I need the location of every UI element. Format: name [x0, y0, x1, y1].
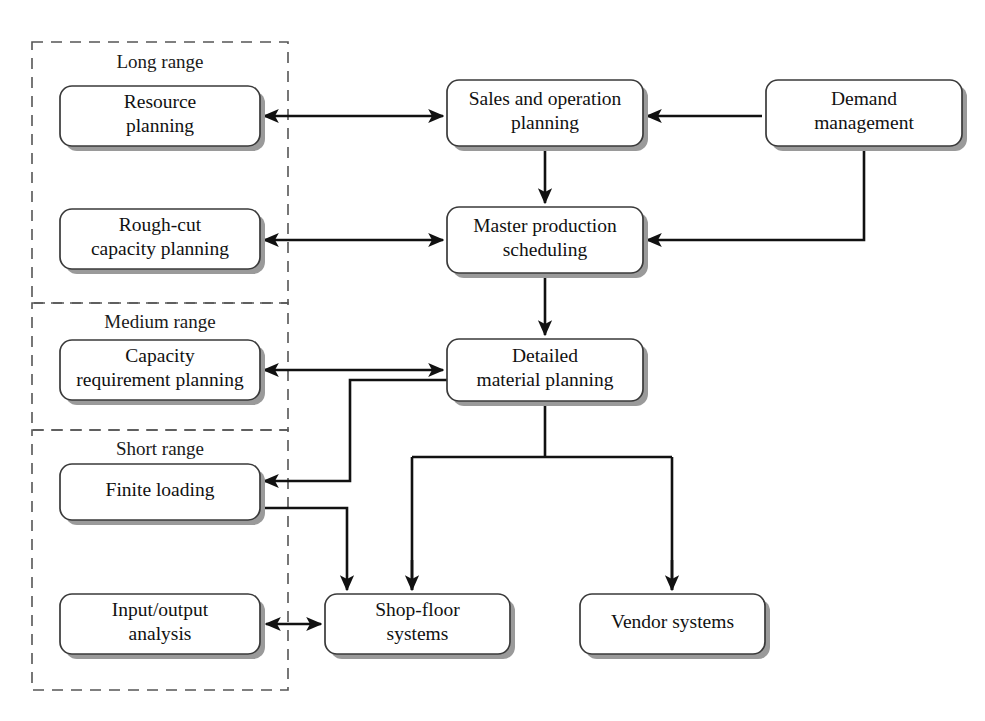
panel-label-medium-range: Medium range	[104, 311, 215, 332]
node-label-demand-management-line-1: management	[814, 112, 914, 133]
node-label-shop-floor-systems-line-0: Shop-floor	[375, 599, 460, 620]
node-label-resource-planning-line-1: planning	[126, 115, 194, 136]
node-label-detailed-material-planning-line-0: Detailed	[512, 345, 578, 366]
node-label-sales-and-operation-planning-line-1: planning	[511, 112, 579, 133]
node-label-master-production-scheduling-line-0: Master production	[473, 215, 617, 236]
panel-label-long-range: Long range	[116, 51, 203, 72]
node-vendor-systems[interactable]: Vendor systems	[580, 594, 770, 659]
node-demand-management[interactable]: Demandmanagement	[766, 80, 967, 151]
node-capacity-requirement-planning[interactable]: Capacityrequirement planning	[60, 340, 265, 405]
process-nodes-group: ResourceplanningSales and operationplann…	[60, 80, 967, 659]
node-label-capacity-requirement-planning-line-0: Capacity	[125, 345, 195, 366]
node-input-output-analysis[interactable]: Input/outputanalysis	[60, 594, 265, 659]
connector-demand-management-to-master-production-scheduling	[647, 150, 864, 240]
node-label-capacity-requirement-planning-line-1: requirement planning	[76, 369, 244, 390]
node-master-production-scheduling[interactable]: Master productionscheduling	[447, 207, 648, 278]
planning-flow-diagram: Long rangeMedium rangeShort range Resour…	[0, 0, 985, 721]
connector-finite-loading-to-shop-floor-systems	[260, 508, 347, 590]
node-detailed-material-planning[interactable]: Detailedmaterial planning	[447, 339, 648, 406]
node-label-vendor-systems-line-0: Vendor systems	[611, 611, 734, 632]
diagram-root: Long rangeMedium rangeShort range Resour…	[0, 0, 985, 721]
panel-label-short-range: Short range	[116, 438, 204, 459]
node-label-finite-loading-line-0: Finite loading	[106, 479, 215, 500]
node-label-shop-floor-systems-line-1: systems	[387, 623, 449, 644]
node-rough-cut-capacity-planning[interactable]: Rough-cutcapacity planning	[60, 209, 265, 274]
node-finite-loading[interactable]: Finite loading	[60, 464, 265, 525]
node-sales-and-operation-planning[interactable]: Sales and operationplanning	[447, 80, 648, 151]
node-shop-floor-systems[interactable]: Shop-floorsystems	[325, 594, 515, 659]
node-label-demand-management-line-0: Demand	[831, 88, 897, 109]
connector-detailed-material-planning-to-finite-loading	[264, 380, 447, 481]
connector-detailed-material-planning-bus	[412, 405, 672, 590]
node-label-detailed-material-planning-line-1: material planning	[477, 369, 614, 390]
node-label-master-production-scheduling-line-1: scheduling	[503, 239, 588, 260]
node-resource-planning[interactable]: Resourceplanning	[60, 86, 265, 151]
node-label-sales-and-operation-planning-line-0: Sales and operation	[469, 88, 622, 109]
node-label-input-output-analysis-line-1: analysis	[129, 623, 192, 644]
node-label-resource-planning-line-0: Resource	[124, 91, 197, 112]
node-label-rough-cut-capacity-planning-line-1: capacity planning	[91, 238, 229, 259]
node-label-rough-cut-capacity-planning-line-0: Rough-cut	[119, 214, 202, 235]
node-label-input-output-analysis-line-0: Input/output	[112, 599, 209, 620]
